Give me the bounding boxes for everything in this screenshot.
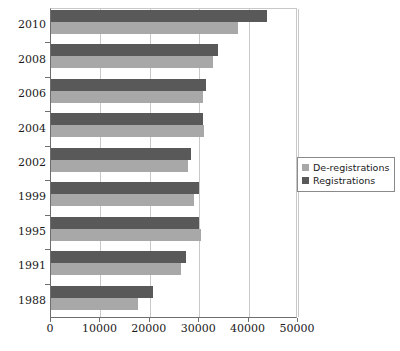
bar-registrations-2002 [51,148,191,160]
x-tick-mark [50,318,51,322]
bar-group-1988 [51,285,296,319]
bar-group-1991 [51,250,296,284]
y-tick-label-2004: 2004 [2,123,46,135]
bar-group-2004 [51,112,296,146]
x-tick-mark [99,318,100,322]
x-tick-label-40000: 40000 [230,322,265,335]
bar-deregistrations-2002 [51,160,188,172]
x-tick-mark [297,318,298,322]
bar-registrations-1991 [51,251,186,263]
bar-registrations-2006 [51,79,206,91]
bar-registrations-1988 [51,286,153,298]
bar-group-2006 [51,78,296,112]
x-axis: 01000020000300004000050000 [0,322,400,342]
bars-layer [51,9,296,317]
y-tick-label-1991: 1991 [2,260,46,272]
bar-deregistrations-1988 [51,298,138,310]
legend-swatch-icon [302,164,309,171]
bar-group-1995 [51,216,296,250]
x-tick-label-50000: 50000 [280,322,315,335]
y-tick-label-1988: 1988 [2,295,46,307]
y-axis: 201020082006200420021999199519911988 [0,8,46,318]
bar-deregistrations-2008 [51,56,213,68]
bar-deregistrations-2006 [51,91,203,103]
x-tick-label-0: 0 [47,322,54,335]
plot-area [50,8,297,318]
bar-registrations-2008 [51,44,218,56]
x-tick-label-30000: 30000 [181,322,216,335]
legend-label: De-registrations [313,161,389,174]
x-tick-mark [248,318,249,322]
bar-registrations-2004 [51,113,203,125]
legend-item-0[interactable]: De-registrations [302,161,389,174]
bar-deregistrations-1991 [51,263,181,275]
x-tick-label-20000: 20000 [131,322,166,335]
x-tick-mark [149,318,150,322]
bar-group-1999 [51,181,296,215]
y-tick-label-2006: 2006 [2,88,46,100]
bar-deregistrations-1999 [51,194,194,206]
legend-label: Registrations [313,174,375,187]
x-tick-mark [198,318,199,322]
bar-group-2002 [51,147,296,181]
y-tick-label-1999: 1999 [2,191,46,203]
bar-registrations-2010 [51,10,267,22]
bar-deregistrations-2010 [51,22,238,34]
legend-item-1[interactable]: Registrations [302,174,389,187]
bar-registrations-1999 [51,182,199,194]
y-tick-label-1995: 1995 [2,226,46,238]
legend-swatch-icon [302,177,309,184]
chart-legend: De-registrationsRegistrations [297,157,395,192]
bar-chart: 201020082006200420021999199519911988 010… [0,0,400,351]
bar-deregistrations-2004 [51,125,204,137]
bar-group-2010 [51,9,296,43]
bar-deregistrations-1995 [51,229,201,241]
bar-group-2008 [51,43,296,77]
y-tick-label-2008: 2008 [2,54,46,66]
y-tick-label-2010: 2010 [2,19,46,31]
x-tick-label-10000: 10000 [82,322,117,335]
y-tick-label-2002: 2002 [2,157,46,169]
bar-registrations-1995 [51,217,199,229]
